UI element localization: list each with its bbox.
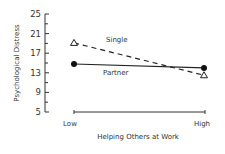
series-partner: Partner bbox=[71, 61, 207, 77]
x-tick-high: High bbox=[194, 120, 210, 128]
y-axis-label: Psychological Distress bbox=[13, 24, 21, 102]
y-tick-label: 17 bbox=[30, 48, 41, 58]
circle-marker bbox=[71, 61, 77, 67]
y-tick-label: 21 bbox=[30, 29, 41, 39]
triangle-marker bbox=[201, 72, 208, 78]
y-tick-label: 5 bbox=[36, 107, 41, 117]
y-tick-label: 25 bbox=[30, 9, 41, 19]
x-axis: Low High Helping Others at Work bbox=[63, 110, 210, 141]
triangle-marker bbox=[71, 39, 78, 45]
series-single: Single bbox=[71, 36, 208, 78]
y-tick-label: 13 bbox=[30, 68, 41, 78]
y-axis: 5913172125 bbox=[30, 9, 49, 117]
y-tick-label: 9 bbox=[36, 87, 41, 97]
single-label: Single bbox=[106, 36, 128, 44]
chart: 5913172125 Low High Helping Others at Wo… bbox=[0, 0, 225, 154]
circle-marker bbox=[201, 65, 207, 71]
x-axis-label: Helping Others at Work bbox=[97, 133, 180, 141]
x-tick-low: Low bbox=[63, 120, 77, 128]
partner-label: Partner bbox=[103, 69, 129, 77]
